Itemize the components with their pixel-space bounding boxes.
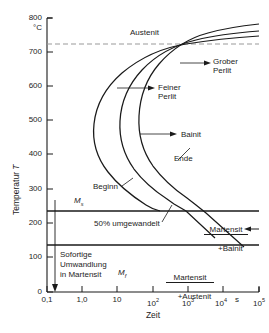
x-tick-10: 10 — [105, 296, 129, 304]
label-martensit-bainit: Martensit +Bainit — [204, 207, 248, 262]
y-tick-0: 0 — [16, 288, 42, 296]
label-instant-transformation-line3: in Martensit — [60, 270, 101, 279]
label-ende: Ende — [174, 154, 193, 163]
x-tick-1e4-base: 10 — [215, 299, 224, 308]
label-instant-transformation-line1: Sofortige — [60, 250, 92, 259]
y-tick-600: 600 — [16, 82, 42, 90]
label-50-percent-transformed: 50% umgewandelt — [94, 219, 160, 228]
y-axis-ticks — [47, 18, 53, 292]
label-austenit: Austenit — [130, 28, 159, 37]
label-bainit: Bainit — [181, 130, 201, 139]
x-axis-ticks — [47, 286, 259, 292]
y-tick-200: 200 — [16, 219, 42, 227]
y-axis-title: Temperatur T — [11, 164, 21, 215]
ttt-diagram-figure: 800 °C 700 600 500 400 300 200 100 0 Tem… — [0, 0, 269, 333]
label-ms-symbol: M — [74, 196, 81, 205]
label-ms-subscript: s — [81, 201, 84, 207]
instant-transformation-arrow — [52, 200, 58, 292]
x-tick-1e5-exp: 5 — [262, 297, 265, 303]
y-tick-100: 100 — [16, 253, 42, 261]
y-axis-title-symbol: T — [11, 164, 21, 169]
y-axis-unit: °C — [16, 24, 42, 32]
label-grober-perlit-line2: Perlit — [213, 66, 231, 75]
y-tick-800: 800 — [16, 14, 42, 22]
leader-50-percent — [162, 205, 172, 222]
x-tick-1e5-base: 10 — [253, 299, 262, 308]
y-tick-400: 400 — [16, 150, 42, 158]
label-instant-transformation-line2: Umwandlung — [60, 260, 107, 269]
label-beginn: Beginn — [93, 182, 118, 191]
label-martensit-bainit-line1: Martensit — [204, 225, 248, 235]
label-martensit-austenit-line1: Martensit — [166, 273, 214, 283]
label-mf-subscript: f — [125, 273, 127, 279]
label-mf-symbol: M — [118, 268, 125, 277]
label-mf: Mf — [118, 268, 126, 281]
x-tick-1e2-base: 10 — [147, 299, 156, 308]
x-tick-1e2-exp: 2 — [156, 297, 159, 303]
x-tick-1e5: 105 — [247, 296, 269, 308]
leader-feiner-perlit — [117, 86, 155, 91]
y-axis-title-text: Temperatur — [11, 172, 21, 215]
x-tick-1-0: 1,0 — [70, 296, 94, 304]
label-martensit-austenit-line2: +Austenit — [178, 292, 212, 301]
x-axis-unit: s — [230, 296, 244, 304]
y-tick-500: 500 — [16, 116, 42, 124]
x-tick-0-1: 0,1 — [35, 296, 59, 304]
x-tick-1e4-exp: 4 — [224, 297, 227, 303]
leader-bainit — [140, 132, 177, 137]
label-feiner-perlit-line2: Perlit — [158, 92, 176, 101]
leader-beginn — [122, 178, 133, 186]
label-ms: Ms — [74, 196, 83, 209]
leader-grober-perlit — [180, 61, 211, 66]
x-tick-1e2: 102 — [141, 296, 165, 308]
label-martensit-austenit: Martensit +Austenit — [166, 255, 214, 310]
label-feiner-perlit-line1: Feiner — [158, 83, 181, 92]
y-tick-700: 700 — [16, 48, 42, 56]
label-martensit-bainit-line2: +Bainit — [218, 244, 243, 253]
x-axis-title: Zeit — [128, 311, 178, 319]
label-grober-perlit-line1: Grober — [213, 57, 238, 66]
